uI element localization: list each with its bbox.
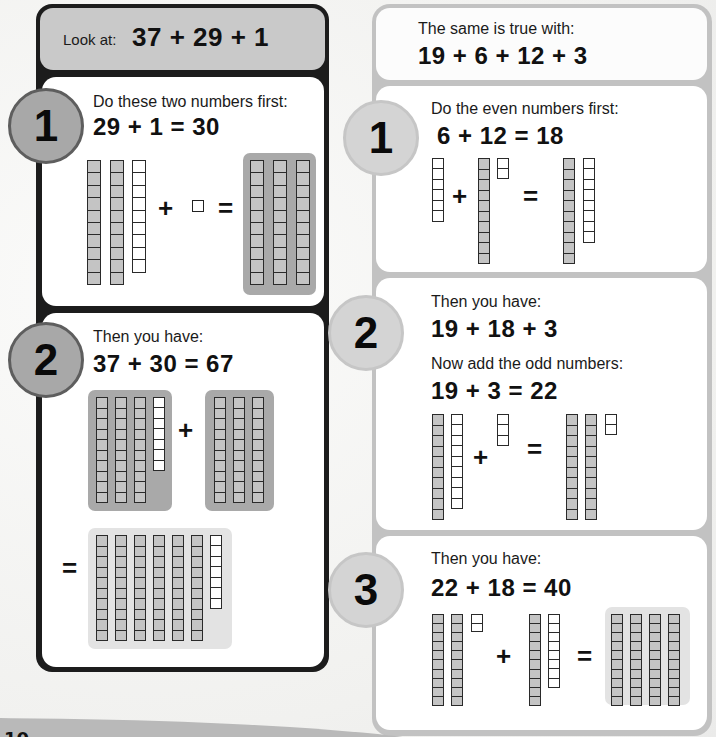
unit-cube bbox=[669, 679, 679, 688]
unit-cube bbox=[564, 170, 574, 181]
unit-cube bbox=[584, 232, 594, 241]
tens-rod bbox=[432, 614, 444, 706]
unit-cube bbox=[631, 679, 641, 688]
unit-cube bbox=[433, 660, 443, 669]
unit-cube bbox=[215, 493, 225, 503]
unit-cube bbox=[650, 624, 660, 633]
unit-cube bbox=[116, 461, 126, 472]
unit-cube bbox=[650, 660, 660, 669]
plus-sign: + bbox=[178, 417, 193, 443]
unit-cube bbox=[154, 536, 164, 547]
ones-column bbox=[497, 158, 509, 179]
right-step1-equation: 6 + 12 = 18 bbox=[437, 122, 564, 150]
unit-cube bbox=[251, 260, 263, 272]
unit-cube bbox=[88, 273, 100, 284]
unit-cube bbox=[88, 235, 100, 247]
unit-cube bbox=[215, 451, 225, 462]
unit-cube bbox=[116, 631, 126, 641]
unit-cube bbox=[215, 398, 225, 409]
unit-cube bbox=[133, 186, 145, 198]
unit-cube bbox=[116, 599, 126, 610]
unit-cube bbox=[297, 248, 309, 260]
unit-cube bbox=[133, 260, 145, 271]
unit-cube bbox=[297, 186, 309, 198]
unit-cube bbox=[669, 615, 679, 624]
unit-cube bbox=[549, 624, 559, 633]
unit-cube bbox=[274, 260, 286, 272]
unit-cube bbox=[154, 578, 164, 589]
plus-sign: + bbox=[452, 183, 467, 209]
unit-cube bbox=[154, 408, 164, 418]
unit-cube bbox=[586, 415, 596, 426]
unit-cube bbox=[479, 191, 489, 202]
left-header: Look at: 37 + 29 + 1 bbox=[40, 8, 325, 70]
unit-cube bbox=[472, 624, 482, 632]
unit-cube bbox=[297, 235, 309, 247]
unit-cube bbox=[116, 547, 126, 558]
unit-cube bbox=[211, 567, 221, 577]
unit-cube bbox=[564, 233, 574, 244]
ones-column bbox=[605, 414, 617, 435]
unit-cube bbox=[564, 201, 574, 212]
unit-cube bbox=[586, 447, 596, 458]
unit-cube bbox=[530, 633, 540, 642]
unit-cube bbox=[650, 679, 660, 688]
unit-cube bbox=[584, 180, 594, 190]
unit-cube bbox=[452, 697, 462, 705]
unit-cube bbox=[564, 212, 574, 223]
tens-rod bbox=[172, 535, 184, 641]
unit-cube bbox=[215, 419, 225, 430]
unit-cube bbox=[135, 610, 145, 621]
unit-cube bbox=[479, 212, 489, 223]
unit-cube bbox=[549, 642, 559, 651]
unit-cube bbox=[564, 254, 574, 264]
left-step1-badge: 1 bbox=[8, 88, 84, 164]
unit-cube bbox=[297, 260, 309, 272]
unit-cube bbox=[97, 536, 107, 547]
right-step3-badge: 3 bbox=[328, 552, 404, 628]
unit-cube bbox=[133, 173, 145, 185]
tens-rod bbox=[296, 160, 310, 285]
unit-cube bbox=[433, 201, 443, 211]
unit-cube bbox=[116, 430, 126, 441]
ones-column bbox=[497, 414, 509, 446]
right-step2-instruction2: Now add the odd numbers: bbox=[431, 355, 623, 373]
unit-cube bbox=[479, 222, 489, 233]
unit-cube bbox=[669, 633, 679, 642]
unit-cube bbox=[253, 493, 263, 503]
unit-cube bbox=[192, 547, 202, 558]
unit-cube bbox=[173, 610, 183, 621]
unit-cube bbox=[116, 620, 126, 631]
unit-cube bbox=[133, 198, 145, 210]
unit-cube bbox=[612, 660, 622, 669]
unit-cube bbox=[97, 430, 107, 441]
unit-cube bbox=[253, 472, 263, 483]
unit-cube bbox=[173, 589, 183, 600]
unit-cube bbox=[116, 451, 126, 462]
unit-cube bbox=[530, 615, 540, 624]
unit-cube bbox=[116, 419, 126, 430]
unit-cube bbox=[564, 222, 574, 233]
left-header-equation: 37 + 29 + 1 bbox=[132, 22, 269, 53]
unit-cube bbox=[135, 472, 145, 483]
tens-rod bbox=[529, 614, 541, 706]
unit-cube bbox=[192, 599, 202, 610]
plus-sign: + bbox=[158, 195, 173, 221]
unit-cube bbox=[586, 468, 596, 479]
unit-cube bbox=[154, 440, 164, 450]
unit-cube bbox=[234, 398, 244, 409]
unit-cube bbox=[116, 409, 126, 420]
tens-rod bbox=[250, 160, 264, 285]
unit-cube bbox=[433, 457, 443, 468]
unit-cube bbox=[135, 409, 145, 420]
unit-cube bbox=[253, 398, 263, 409]
unit-cube bbox=[612, 697, 622, 705]
unit-cube bbox=[452, 679, 462, 688]
unit-cube bbox=[297, 211, 309, 223]
unit-cube bbox=[549, 679, 559, 687]
equals-sign: = bbox=[523, 183, 538, 209]
unit-cube bbox=[530, 660, 540, 669]
unit-cube bbox=[631, 697, 641, 705]
unit-cube bbox=[650, 670, 660, 679]
unit-cube bbox=[251, 173, 263, 185]
